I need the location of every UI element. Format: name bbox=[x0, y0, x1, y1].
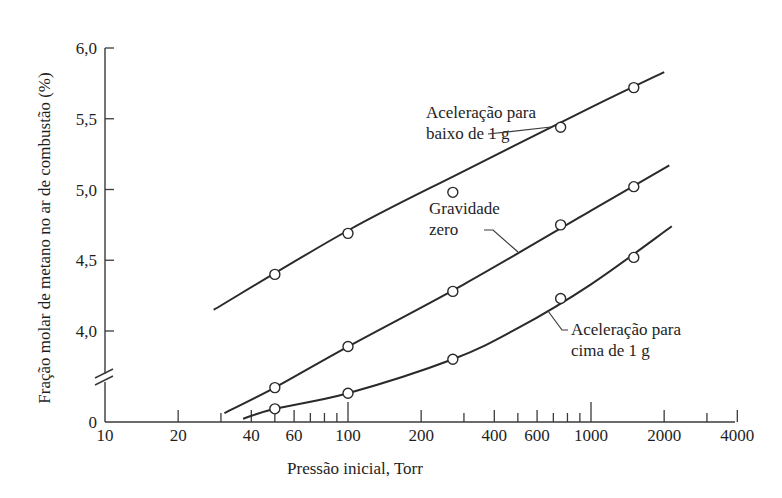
x-tick-label: 100 bbox=[335, 426, 361, 445]
x-tick-label: 2000 bbox=[647, 426, 681, 445]
data-point-marker bbox=[270, 383, 280, 393]
data-point-marker bbox=[629, 83, 639, 93]
data-point-marker bbox=[556, 220, 566, 230]
x-tick-label: 200 bbox=[408, 426, 434, 445]
annotation-text: Gravidade bbox=[429, 199, 500, 218]
y-tick-label: 5,5 bbox=[76, 110, 97, 129]
data-point-marker bbox=[629, 252, 639, 262]
data-point-marker bbox=[448, 187, 458, 197]
data-point-marker bbox=[629, 182, 639, 192]
annotation-text: zero bbox=[429, 220, 458, 239]
y-axis-title: Fração molar de metano no ar de combustã… bbox=[35, 72, 54, 403]
x-tick-label: 60 bbox=[286, 426, 303, 445]
y-axis-break-marker bbox=[95, 369, 113, 385]
data-point-marker bbox=[343, 228, 353, 238]
x-tick-label: 1000 bbox=[574, 426, 608, 445]
x-tick-label: 600 bbox=[524, 426, 550, 445]
annotation-text: cima de 1 g bbox=[571, 341, 650, 360]
data-point-marker bbox=[270, 404, 280, 414]
annotation-leader-line bbox=[484, 230, 518, 252]
axes: 04,04,55,05,56,0102040601002004006001000… bbox=[76, 39, 755, 445]
y-tick-label: 5,0 bbox=[76, 181, 97, 200]
annotation-text: Aceleração para bbox=[571, 320, 681, 339]
data-point-marker bbox=[556, 122, 566, 132]
annotation-text: Aceleração para bbox=[426, 103, 536, 122]
data-point-marker bbox=[448, 354, 458, 364]
annotation-zero: Gravidadezero bbox=[429, 199, 518, 252]
annotation-leader-line bbox=[548, 311, 568, 330]
x-tick-label: 400 bbox=[482, 426, 508, 445]
y-tick-label: 4,5 bbox=[76, 251, 97, 270]
x-tick-label: 4000 bbox=[720, 426, 754, 445]
x-tick-label: 20 bbox=[170, 426, 187, 445]
x-axis-title: Pressão inicial, Torr bbox=[287, 459, 423, 478]
data-point-marker bbox=[343, 342, 353, 352]
chart: 04,04,55,05,56,0102040601002004006001000… bbox=[0, 0, 782, 498]
data-point-marker bbox=[270, 269, 280, 279]
x-tick-label: 40 bbox=[243, 426, 260, 445]
y-tick-label: 6,0 bbox=[76, 39, 97, 58]
data-point-marker bbox=[343, 388, 353, 398]
annotation-up: Aceleração paracima de 1 g bbox=[548, 311, 681, 360]
data-point-marker bbox=[448, 286, 458, 296]
y-tick-label: 4,0 bbox=[76, 322, 97, 341]
data-point-marker bbox=[556, 293, 566, 303]
x-tick-label: 10 bbox=[97, 426, 114, 445]
